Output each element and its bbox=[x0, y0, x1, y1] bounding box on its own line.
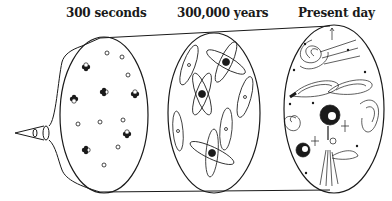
timeline-cone bbox=[15, 26, 330, 192]
stage-ellipse-present-day bbox=[284, 25, 384, 193]
atom-icons bbox=[171, 40, 256, 178]
stage-ellipse-300000-years bbox=[168, 33, 260, 193]
cosmic-timeline-diagram bbox=[0, 0, 392, 201]
galaxy-icons bbox=[284, 28, 378, 186]
stage-ellipse-300-seconds bbox=[60, 37, 148, 193]
